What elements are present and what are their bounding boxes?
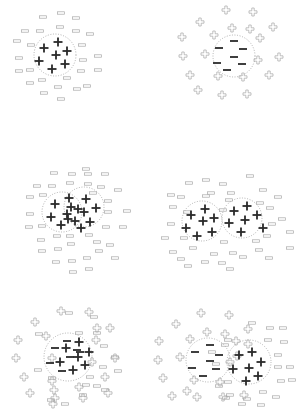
plus-icon xyxy=(187,211,196,220)
outline-minus-icon xyxy=(219,262,226,264)
plus-icon xyxy=(52,51,61,60)
outline-minus-icon xyxy=(78,70,85,72)
outline-minus-icon xyxy=(34,185,41,187)
outline-minus-icon xyxy=(57,26,64,28)
outline-plus-icon xyxy=(196,18,204,26)
plus-icon xyxy=(248,348,257,357)
outline-minus-icon xyxy=(53,261,60,263)
outline-minus-icon xyxy=(94,241,101,243)
outline-minus-icon xyxy=(178,196,185,198)
outline-plus-icon xyxy=(275,53,283,61)
outline-plus-icon xyxy=(203,328,211,336)
outline-plus-icon xyxy=(168,392,176,400)
outline-minus-icon xyxy=(203,179,210,181)
outline-minus-icon xyxy=(55,86,62,88)
outline-minus-icon xyxy=(105,211,112,213)
outline-minus-icon xyxy=(239,403,246,405)
outline-plus-icon xyxy=(222,6,230,14)
plus-icon xyxy=(64,215,73,224)
outline-minus-icon xyxy=(79,44,86,46)
outline-plus-icon xyxy=(244,340,252,348)
outline-minus-icon xyxy=(209,351,216,353)
outline-plus-icon xyxy=(197,309,205,317)
outline-minus-icon xyxy=(269,223,276,225)
outline-minus-icon xyxy=(100,366,107,368)
outline-plus-icon xyxy=(186,71,194,79)
outline-plus-icon xyxy=(106,324,114,332)
outline-minus-icon xyxy=(105,200,112,202)
outline-minus-icon xyxy=(260,391,267,393)
outline-minus-icon xyxy=(54,235,61,237)
outline-plus-icon xyxy=(75,383,83,391)
outline-minus-icon xyxy=(228,192,235,194)
outline-plus-icon xyxy=(218,91,226,99)
plus-icon xyxy=(230,207,239,216)
outline-minus-icon xyxy=(168,223,175,225)
outline-minus-icon xyxy=(281,341,288,343)
outline-minus-icon xyxy=(95,55,102,57)
outline-minus-icon xyxy=(278,380,285,382)
outline-minus-icon xyxy=(115,189,122,191)
outline-plus-icon xyxy=(155,337,163,345)
outline-minus-icon xyxy=(39,250,46,252)
outline-minus-icon xyxy=(265,339,272,341)
panel-a xyxy=(14,12,102,100)
outline-plus-icon xyxy=(246,25,254,33)
plus-icon xyxy=(82,195,91,204)
outline-plus-icon xyxy=(179,52,187,60)
outline-minus-icon xyxy=(28,44,35,46)
outline-minus-icon xyxy=(27,196,34,198)
outline-minus-icon xyxy=(275,196,282,198)
outline-plus-icon xyxy=(210,31,218,39)
outline-minus-icon xyxy=(87,33,94,35)
outline-minus-icon xyxy=(37,30,44,32)
outline-minus-icon xyxy=(257,202,264,204)
outline-minus-icon xyxy=(211,253,218,255)
outline-plus-icon xyxy=(249,8,257,16)
outline-minus-icon xyxy=(279,218,286,220)
outline-minus-icon xyxy=(86,234,93,236)
plus-icon xyxy=(259,224,268,233)
plus-icon xyxy=(69,366,78,375)
plus-icon xyxy=(86,218,95,227)
outline-plus-icon xyxy=(256,34,264,42)
plus-icon xyxy=(77,224,86,233)
outline-minus-icon xyxy=(287,247,294,249)
plus-icon xyxy=(61,60,70,69)
outline-plus-icon xyxy=(31,318,39,326)
outline-minus-icon xyxy=(84,85,91,87)
outline-minus-icon xyxy=(203,195,210,197)
outline-minus-icon xyxy=(287,366,294,368)
outline-minus-icon xyxy=(74,88,81,90)
outline-plus-icon xyxy=(201,50,209,58)
outline-minus-icon xyxy=(73,17,80,19)
outline-minus-icon xyxy=(41,92,48,94)
outline-minus-icon xyxy=(170,206,177,208)
plus-icon xyxy=(208,228,217,237)
outline-minus-icon xyxy=(222,344,229,346)
outline-minus-icon xyxy=(49,185,56,187)
plus-icon xyxy=(62,344,71,353)
outline-minus-icon xyxy=(84,257,91,259)
outline-minus-icon xyxy=(69,260,76,262)
outline-plus-icon xyxy=(42,332,50,340)
outline-minus-icon xyxy=(87,376,94,378)
outline-minus-icon xyxy=(208,192,215,194)
plus-icon xyxy=(48,65,57,74)
outline-minus-icon xyxy=(62,403,69,405)
outline-plus-icon xyxy=(243,90,251,98)
outline-minus-icon xyxy=(120,226,127,228)
outline-minus-icon xyxy=(107,244,114,246)
outline-minus-icon xyxy=(22,30,29,32)
plus-icon xyxy=(54,38,63,47)
outline-minus-icon xyxy=(267,207,274,209)
outline-plus-icon xyxy=(214,72,222,80)
outline-plus-icon xyxy=(79,394,87,402)
outline-plus-icon xyxy=(190,376,198,384)
outline-minus-icon xyxy=(258,404,265,406)
outline-minus-icon xyxy=(181,237,188,239)
outline-minus-icon xyxy=(103,226,110,228)
outline-minus-icon xyxy=(51,172,58,174)
plus-icon xyxy=(254,372,263,381)
outline-minus-icon xyxy=(247,175,254,177)
